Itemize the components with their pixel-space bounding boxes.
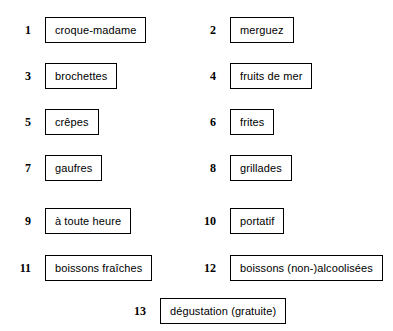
item-box: brochettes <box>45 63 117 89</box>
list-item: 12 boissons (non-)alcoolisées <box>194 255 383 281</box>
item-box: dégustation (gratuite) <box>160 298 286 324</box>
list-item: 7 gaufres <box>9 155 102 181</box>
item-box: fruits de mer <box>230 63 312 89</box>
item-box: gaufres <box>45 155 102 181</box>
item-number: 5 <box>9 116 31 128</box>
item-box: portatif <box>230 208 284 234</box>
item-box: boissons fraîches <box>45 255 152 281</box>
item-number: 13 <box>124 305 146 317</box>
item-number: 9 <box>9 215 31 227</box>
list-item: 4 fruits de mer <box>194 63 312 89</box>
item-box: croque-madame <box>45 17 146 43</box>
item-number: 3 <box>9 70 31 82</box>
item-number: 4 <box>194 70 216 82</box>
list-item: 2 merguez <box>194 17 294 43</box>
list-item: 10 portatif <box>194 208 284 234</box>
item-number: 12 <box>194 262 216 274</box>
item-number: 11 <box>9 262 31 274</box>
item-box: à toute heure <box>45 208 131 234</box>
list-item: 5 crêpes <box>9 109 99 135</box>
list-item: 6 frites <box>194 109 274 135</box>
item-number: 8 <box>194 162 216 174</box>
list-item: 3 brochettes <box>9 63 117 89</box>
item-number: 7 <box>9 162 31 174</box>
item-number: 10 <box>194 215 216 227</box>
list-item: 11 boissons fraîches <box>9 255 152 281</box>
worksheet-canvas: 1 croque-madame 2 merguez 3 brochettes 4… <box>0 0 393 331</box>
list-item: 13 dégustation (gratuite) <box>124 298 286 324</box>
item-box: crêpes <box>45 109 99 135</box>
list-item: 8 grillades <box>194 155 292 181</box>
item-number: 1 <box>9 24 31 36</box>
list-item: 1 croque-madame <box>9 17 146 43</box>
item-box: grillades <box>230 155 292 181</box>
item-number: 6 <box>194 116 216 128</box>
list-item: 9 à toute heure <box>9 208 131 234</box>
item-box: frites <box>230 109 274 135</box>
item-box: boissons (non-)alcoolisées <box>230 255 383 281</box>
item-box: merguez <box>230 17 294 43</box>
item-number: 2 <box>194 24 216 36</box>
